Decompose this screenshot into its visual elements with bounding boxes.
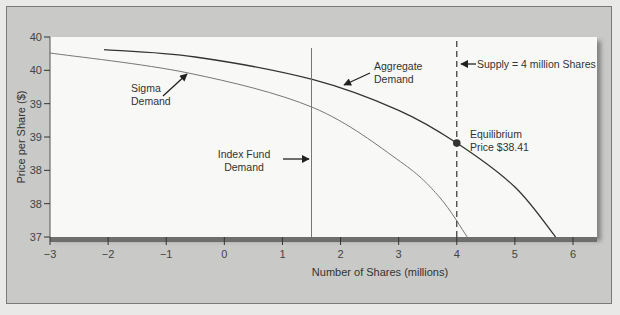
y-tick-label: 40 [30,64,42,76]
equilibrium-label: EquilibriumPrice $38.41 [470,128,529,153]
y-tick-label: 38 [30,164,42,176]
x-tick-label: −1 [160,248,173,260]
x-tick-label: 6 [570,248,576,260]
x-tick-label: 2 [337,248,343,260]
supply-label: Supply = 4 million Shares [477,58,596,70]
x-tick-label: 0 [221,248,227,260]
x-tick-label: 5 [512,248,518,260]
x-tick-label: −2 [102,248,115,260]
y-axis-title: Price per Share ($) [15,91,27,184]
y-tick-label: 38 [30,198,42,210]
y-tick-label: 39 [30,98,42,110]
x-tick-label: 3 [396,248,402,260]
equilibrium-point [453,139,461,147]
y-tick-label: 39 [30,131,42,143]
y-tick-label: 40 [30,31,42,43]
x-tick-label: 4 [454,248,460,260]
index-fund-demand-label: Index FundDemand [218,148,271,173]
demand-supply-chart: −3−2−1012345637383839394040 SigmaDemandA… [0,0,620,315]
y-tick-label: 37 [30,231,42,243]
x-tick-label: −3 [44,248,57,260]
x-tick-label: 1 [279,248,285,260]
x-axis-title: Number of Shares (millions) [312,266,448,278]
